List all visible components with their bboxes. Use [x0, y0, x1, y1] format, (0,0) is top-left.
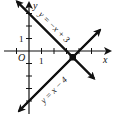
y-unit-label: 1 — [19, 34, 24, 44]
x-axis-label: x — [102, 54, 108, 65]
graph-canvas: y x O 1 1 y = −x + 3 y = x − 4 — [0, 0, 114, 117]
coordinate-graph: y x O 1 1 y = −x + 3 y = x − 4 — [0, 0, 114, 117]
line-label-x-minus-4: y = x − 4 — [38, 74, 70, 106]
x-unit-label: 1 — [39, 56, 44, 66]
origin-label: O — [18, 52, 25, 63]
intersection-point — [70, 54, 77, 61]
y-axis-label: y — [32, 0, 38, 11]
